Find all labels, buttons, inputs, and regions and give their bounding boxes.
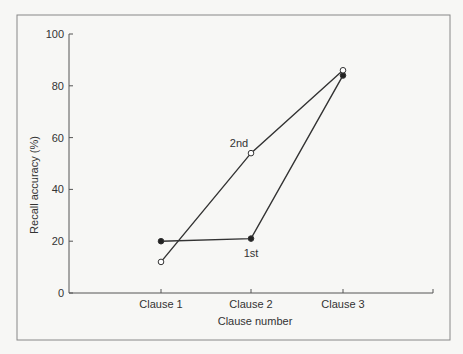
series-layer: 1st2nd — [158, 67, 346, 264]
series-line-1st — [161, 75, 343, 241]
y-tick-label: 100 — [46, 28, 64, 40]
chart: 020406080100Clause 1Clause 2Clause 3 1st… — [0, 0, 463, 354]
x-axis-label: Clause number — [218, 315, 293, 327]
y-tick-label: 60 — [52, 132, 64, 144]
series-label-2nd: 2nd — [230, 137, 248, 149]
data-point-2nd — [340, 67, 346, 73]
chart-frame — [17, 15, 450, 340]
data-point-1st — [248, 236, 254, 242]
x-tick-label: Clause 1 — [139, 298, 182, 310]
x-tick-label: Clause 2 — [229, 298, 272, 310]
y-tick-label: 40 — [52, 183, 64, 195]
y-tick-label: 80 — [52, 80, 64, 92]
series-label-1st: 1st — [244, 247, 259, 259]
data-point-2nd — [158, 259, 164, 265]
y-tick-label: 0 — [58, 287, 64, 299]
data-point-1st — [158, 238, 164, 244]
series-line-2nd — [161, 70, 343, 262]
axes: 020406080100Clause 1Clause 2Clause 3 — [46, 28, 433, 310]
data-point-2nd — [248, 150, 254, 156]
y-tick-label: 20 — [52, 235, 64, 247]
y-axis-label: Recall accuracy (%) — [28, 136, 40, 234]
x-tick-label: Clause 3 — [321, 298, 364, 310]
